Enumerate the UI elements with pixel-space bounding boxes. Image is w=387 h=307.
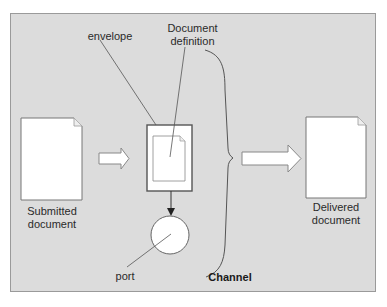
submitted-document-label-line2: document (14, 218, 90, 231)
delivered-document-label: Delivered document (298, 201, 374, 227)
delivered-document-label-line2: document (298, 214, 374, 227)
channel-brace (205, 50, 233, 277)
submitted-document-icon (21, 118, 82, 200)
submitted-document-label: Submitted document (14, 205, 90, 231)
port-label: port (105, 270, 145, 283)
channel-label: Channel (200, 271, 260, 284)
delivered-document-icon (306, 117, 366, 198)
delivered-document-label-line1: Delivered (298, 201, 374, 214)
document-definition-label-line1: Document (155, 22, 230, 35)
envelope-label: envelope (80, 30, 140, 43)
submit-arrow-icon (99, 148, 129, 169)
diagram-canvas: envelope Document definition Submitted d… (0, 0, 387, 307)
deliver-arrow-icon (242, 145, 301, 172)
submitted-document-label-line1: Submitted (14, 205, 90, 218)
document-definition-label: Document definition (155, 22, 230, 48)
document-definition-icon (153, 136, 185, 181)
document-definition-label-line2: definition (155, 35, 230, 48)
envelope-leader-line (100, 40, 156, 125)
